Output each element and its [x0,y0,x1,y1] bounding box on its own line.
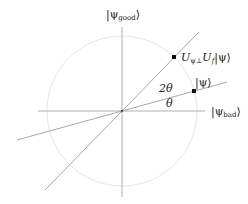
diagram-canvas [0,0,248,204]
rotated-psi-point [172,55,176,59]
origin-point [121,110,123,112]
theta-angle-label: θ [166,98,173,109]
psi-point [192,89,196,93]
good-axis-label: |ψgood⟩ [106,9,140,22]
two-theta-angle-label: 2θ [159,83,173,94]
bad-axis-label: |ψbad⟩ [211,106,241,119]
psi-label: |ψ⟩ [195,77,212,88]
rotated-psi-label: Uψ⊥Uf|ψ⟩ [181,52,231,65]
grover-diagram: |ψgood⟩ |ψbad⟩ Uψ⊥Uf|ψ⟩ |ψ⟩ 2θ θ [0,0,248,204]
